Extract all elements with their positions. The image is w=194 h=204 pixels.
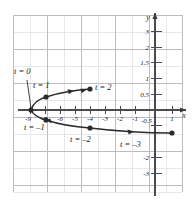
arrow-upper-2 bbox=[81, 88, 88, 93]
annotation-t-minus-2: t = –2 bbox=[70, 134, 91, 144]
plot-canvas: -9 -7 -6 -5 -4 -3 -2 -1 1 3 2 1.5 1 0.5 … bbox=[0, 0, 194, 204]
point-t0 bbox=[28, 107, 33, 112]
svg-text:-3: -3 bbox=[102, 115, 108, 123]
x-axis-name: x bbox=[181, 111, 186, 120]
parametric-curve bbox=[31, 89, 172, 133]
figure-parametric-plot: -9 -7 -6 -5 -4 -3 -2 -1 1 3 2 1.5 1 0.5 … bbox=[0, 0, 194, 204]
y-tick-labels: 3 2 1.5 1 0.5 -0.5 -2 -3 bbox=[140, 28, 152, 178]
point-t1 bbox=[43, 94, 48, 99]
svg-text:-6: -6 bbox=[57, 115, 63, 123]
svg-text:-1: -1 bbox=[132, 115, 138, 123]
svg-text:-2: -2 bbox=[143, 154, 149, 162]
annotation-t2: t = 2 bbox=[95, 82, 112, 92]
svg-text:0.5: 0.5 bbox=[140, 91, 149, 99]
svg-text:-4: -4 bbox=[87, 115, 93, 123]
y-axis-ticks bbox=[151, 31, 162, 173]
point-t-minus-2 bbox=[87, 125, 92, 130]
annotation-t1: t = 1 bbox=[33, 80, 50, 90]
svg-text:-0.5: -0.5 bbox=[141, 117, 153, 125]
arrow-upper-1 bbox=[68, 89, 75, 94]
y-axis-name: y bbox=[145, 13, 150, 22]
svg-text:1.5: 1.5 bbox=[140, 59, 149, 67]
point-t-minus-3 bbox=[169, 130, 174, 135]
axis-arrowheads bbox=[152, 13, 186, 113]
grid-minor bbox=[13, 15, 182, 192]
annotation-t0: t = 0 bbox=[14, 66, 31, 76]
svg-text:-5: -5 bbox=[72, 115, 78, 123]
svg-text:-3: -3 bbox=[143, 170, 149, 178]
svg-text:1: 1 bbox=[170, 115, 174, 123]
svg-text:1: 1 bbox=[146, 75, 150, 83]
svg-text:-2: -2 bbox=[117, 115, 123, 123]
svg-text:3: 3 bbox=[145, 28, 150, 36]
axis-lines bbox=[18, 13, 186, 196]
svg-text:2: 2 bbox=[146, 44, 150, 52]
annotation-t-minus-3: t = –3 bbox=[120, 139, 141, 149]
annotation-t-minus-1: t = –1 bbox=[24, 122, 45, 132]
point-t2 bbox=[87, 86, 92, 91]
y-axis-arrowhead bbox=[152, 13, 157, 19]
grid-major bbox=[13, 15, 182, 192]
